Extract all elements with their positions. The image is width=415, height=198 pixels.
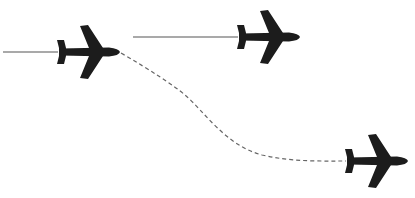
airplane-icon xyxy=(237,10,300,64)
airplane-icon xyxy=(345,134,408,188)
flight-diagram xyxy=(0,0,415,198)
diverging-dashed-path xyxy=(121,53,346,161)
airplane-icon xyxy=(57,25,120,79)
diagram-canvas xyxy=(0,0,415,198)
